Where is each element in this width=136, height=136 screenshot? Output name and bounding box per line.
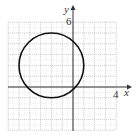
y-axis-label: y (63, 3, 69, 15)
coordinate-plane: y 6 4 x (0, 0, 136, 136)
grid (8, 22, 116, 130)
x-tick-label-4: 4 (113, 88, 119, 100)
y-axis-arrow-icon (71, 5, 76, 10)
x-axis-label: x (123, 86, 129, 98)
y-tick-label-6: 6 (66, 15, 72, 27)
